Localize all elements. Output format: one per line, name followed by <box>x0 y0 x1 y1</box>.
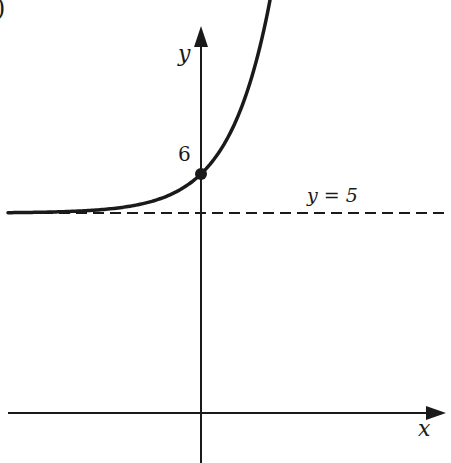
y-axis-arrow-icon <box>194 26 208 47</box>
exponential-curve <box>8 0 270 213</box>
corner-fragment: ) <box>0 0 5 20</box>
graph <box>0 0 451 463</box>
asymptote-label: y = 5 <box>307 186 358 205</box>
y-intercept-point <box>195 168 207 180</box>
y-axis-label: y <box>178 43 190 65</box>
point-label: 6 <box>178 144 191 164</box>
x-axis-label: x <box>418 418 430 440</box>
